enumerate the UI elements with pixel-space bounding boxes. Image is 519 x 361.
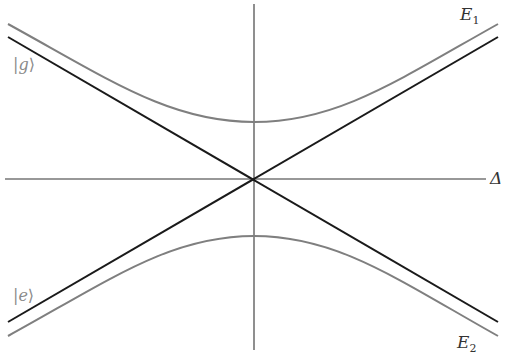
ground-state-label: |g⟩ (13, 57, 35, 73)
lower-energy-subscript: 2 (469, 342, 476, 355)
delta-symbol: Δ (490, 168, 502, 188)
lower-energy-label: E2 (457, 334, 476, 354)
upper-energy-symbol: E (460, 4, 472, 24)
upper-energy-subscript: 1 (472, 14, 479, 27)
excited-state-letter: e (18, 286, 27, 305)
ket-angle: ⟩ (28, 286, 34, 305)
detuning-axis-label: Δ (490, 170, 502, 187)
energy-diagram (0, 0, 519, 361)
upper-dressed-curve (8, 24, 498, 122)
ket-angle: ⟩ (29, 55, 35, 74)
lower-energy-symbol: E (457, 332, 469, 352)
excited-state-label: |e⟩ (13, 288, 34, 304)
ground-state-letter: g (18, 55, 28, 74)
lower-dressed-curve (8, 236, 498, 336)
upper-energy-label: E1 (460, 6, 479, 26)
